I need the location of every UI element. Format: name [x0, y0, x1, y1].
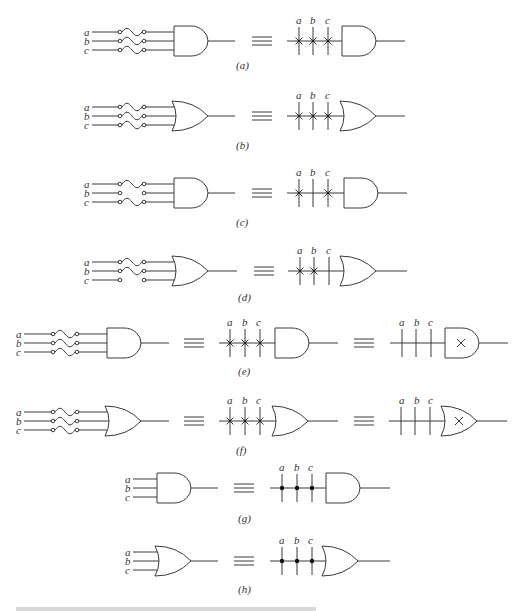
col-label-a: a [399, 316, 405, 328]
col-label-b: b [414, 394, 420, 406]
equivalence-symbol [254, 267, 274, 275]
equivalence-symbol [354, 339, 374, 347]
col-label-a: a [296, 166, 302, 178]
and-gate [275, 328, 309, 358]
caption-b: (b) [236, 139, 249, 152]
panel-g: a b c a b c (g) [125, 461, 390, 525]
fuse-diagram-left: a b c [84, 26, 235, 56]
or-gate [272, 406, 308, 436]
and-gate [157, 473, 191, 503]
or-gate [322, 546, 358, 576]
col-label-c: c [325, 89, 330, 101]
col-label-c: c [256, 394, 261, 406]
equivalence-symbol [234, 557, 254, 565]
and-gate [107, 328, 141, 358]
input-label-c: c [84, 274, 89, 286]
col-label-a: a [279, 461, 285, 473]
equivalence-symbol [252, 189, 272, 197]
input-label-c: c [84, 119, 89, 131]
caption-e: (e) [238, 365, 251, 378]
pld-fuse-diagram: a b c a b c (a) a b c a b c [0, 0, 527, 611]
and-gate [342, 26, 376, 56]
and-gate [326, 473, 360, 503]
figure-caption-cutoff [16, 607, 316, 611]
and-gate-shorthand [445, 328, 479, 358]
equivalence-symbol [252, 112, 272, 120]
col-label-a: a [399, 394, 405, 406]
col-label-b: b [310, 14, 316, 26]
hard-connection-dot [310, 559, 314, 563]
equivalence-symbol [252, 37, 272, 45]
or-gate [340, 256, 376, 286]
caption-c: (c) [236, 216, 249, 229]
col-label-b: b [310, 166, 316, 178]
or-gate [340, 101, 376, 131]
shorthand-right: a b c [287, 14, 405, 56]
and-gate [174, 26, 208, 56]
col-label-c: c [428, 394, 433, 406]
col-label-b: b [242, 316, 248, 328]
caption-a: (a) [236, 59, 249, 72]
input-label-c: c [16, 424, 21, 436]
col-label-a: a [297, 244, 303, 256]
caption-d: (d) [238, 291, 251, 304]
col-label-c: c [325, 166, 330, 178]
panel-h: a b c a b c (h) [125, 534, 390, 596]
col-label-b: b [311, 244, 317, 256]
hard-connection-dot [295, 486, 299, 490]
hard-connection-dot [280, 486, 284, 490]
col-label-c: c [308, 461, 313, 473]
col-label-c: c [326, 244, 331, 256]
caption-f: (f) [236, 444, 247, 457]
panel-c: a b c a b c (c) [84, 166, 407, 229]
panel-f: a b c a b c a b c (f) [16, 394, 507, 457]
input-label-c: c [84, 196, 89, 208]
caption-h: (h) [238, 583, 251, 596]
col-label-b: b [294, 461, 300, 473]
col-label-c: c [325, 14, 330, 26]
and-gate [344, 178, 378, 208]
equivalence-symbol [184, 339, 204, 347]
col-label-b: b [414, 316, 420, 328]
panel-a: a b c a b c (a) [84, 14, 405, 72]
panel-e: a b c a b c a b c (e) [16, 316, 508, 378]
caption-g: (g) [238, 512, 251, 525]
hard-connection-dot [310, 486, 314, 490]
col-label-b: b [294, 534, 300, 546]
col-label-b: b [310, 89, 316, 101]
col-label-a: a [227, 316, 233, 328]
col-label-a: a [296, 14, 302, 26]
col-label-a: a [279, 534, 285, 546]
or-gate [172, 256, 208, 286]
equivalence-symbol [354, 417, 374, 425]
col-label-c: c [256, 316, 261, 328]
col-label-b: b [242, 394, 248, 406]
or-gate [172, 101, 208, 131]
input-label-c: c [125, 491, 130, 503]
equivalence-symbol [234, 484, 254, 492]
input-label-c: c [125, 564, 130, 576]
col-label-a: a [296, 89, 302, 101]
hard-connection-dot [295, 559, 299, 563]
input-label-c: c [84, 44, 89, 56]
panel-b: a b c a b c (b) [84, 89, 405, 152]
col-label-a: a [227, 394, 233, 406]
blown-fuse [118, 278, 146, 282]
or-gate [155, 546, 191, 576]
equivalence-symbol [184, 417, 204, 425]
input-label-c: c [16, 346, 21, 358]
or-gate [105, 406, 141, 436]
col-label-c: c [308, 534, 313, 546]
panel-d: a b c a b c (d) [84, 244, 407, 304]
col-label-c: c [428, 316, 433, 328]
hard-connection-dot [280, 559, 284, 563]
blown-fuse [118, 191, 146, 195]
and-gate [174, 178, 208, 208]
